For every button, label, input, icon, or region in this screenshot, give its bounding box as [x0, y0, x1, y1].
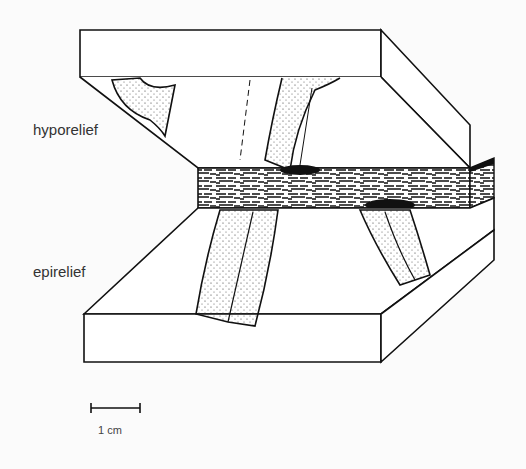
scale-bar-label: 1 cm: [98, 424, 122, 436]
lower-block-epirelief: [84, 198, 494, 362]
hyporelief-label: hyporelief: [33, 121, 98, 138]
scale-bar: [91, 403, 140, 413]
block-diagram: [0, 0, 526, 469]
upper-block-hyporelief: [80, 30, 470, 170]
epirelief-label: epirelief: [33, 263, 86, 280]
